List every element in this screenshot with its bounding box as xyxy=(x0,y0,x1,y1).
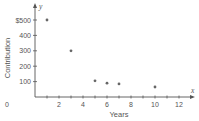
scatter-chart: 24681012100200300400$5000yxYearsContribu… xyxy=(0,0,199,121)
data-point xyxy=(106,82,109,85)
data-point xyxy=(70,49,73,52)
data-point xyxy=(46,19,49,22)
x-tick-label: 10 xyxy=(151,101,159,108)
data-points xyxy=(46,19,157,89)
y-axis-title: Contribution xyxy=(3,38,12,78)
data-point xyxy=(94,79,97,82)
data-point xyxy=(118,83,121,86)
data-point xyxy=(154,86,157,89)
labels: 24681012100200300400$5000yxYearsContribu… xyxy=(3,2,195,119)
x-tick-label: 12 xyxy=(175,101,183,108)
y-tick-label: 400 xyxy=(19,32,31,39)
x-tick-label: 6 xyxy=(105,101,109,108)
x-tick-label: 2 xyxy=(57,101,61,108)
x-tick-label: 4 xyxy=(81,101,85,108)
x-tick-label: 8 xyxy=(129,101,133,108)
x-axis-arrow-icon xyxy=(190,95,195,99)
y-tick-label: $500 xyxy=(15,17,31,24)
x-axis-title: Years xyxy=(110,110,129,119)
y-tick-label: 300 xyxy=(19,47,31,54)
x-axis-variable: x xyxy=(190,86,195,95)
y-tick-label: 200 xyxy=(19,63,31,70)
y-axis-variable: y xyxy=(38,2,43,11)
origin-label: 0 xyxy=(5,101,9,108)
axes xyxy=(33,3,195,99)
y-tick-label: 100 xyxy=(19,78,31,85)
y-axis-arrow-icon xyxy=(33,3,37,8)
